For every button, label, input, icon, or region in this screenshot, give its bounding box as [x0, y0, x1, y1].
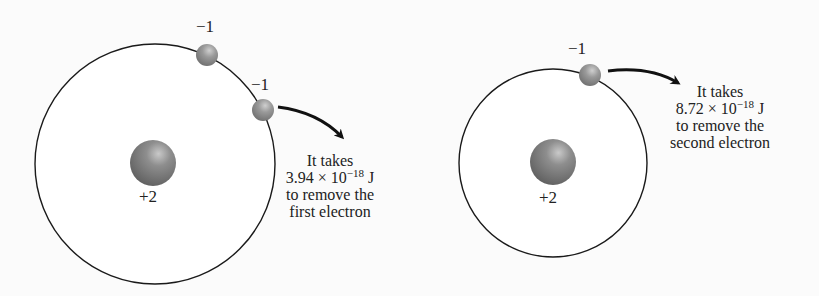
- right-nucleus-charge: +2: [539, 189, 557, 207]
- left-energy-unit: J: [364, 169, 374, 186]
- left-arrow: [278, 107, 342, 137]
- right-electron: [579, 64, 601, 86]
- right-energy-unit: J: [754, 100, 764, 117]
- left-electron-2: [252, 99, 274, 121]
- left-electron-2-charge: −1: [251, 76, 269, 94]
- left-note-line1: It takes: [262, 152, 398, 169]
- left-energy-exponent: −18: [347, 167, 364, 179]
- right-arrow: [608, 70, 678, 83]
- right-energy-exponent: −18: [737, 98, 754, 110]
- right-note-line4: second electron: [650, 134, 790, 151]
- left-note-line3: to remove the: [262, 186, 398, 203]
- left-nucleus-charge: +2: [139, 188, 157, 206]
- ionization-energy-diagram: −1 −1 +2 It takes 3.94 × 10−18 J to remo…: [0, 0, 819, 296]
- left-note-energy: 3.94 × 10−18 J: [262, 169, 398, 186]
- right-ionization-note: It takes 8.72 × 10−18 J to remove the se…: [650, 83, 790, 151]
- right-electron-charge: −1: [568, 40, 586, 58]
- left-nucleus: [130, 140, 176, 186]
- right-energy-mantissa: 8.72 × 10: [676, 100, 737, 117]
- right-note-energy: 8.72 × 10−18 J: [650, 100, 790, 117]
- left-ionization-note: It takes 3.94 × 10−18 J to remove the fi…: [262, 152, 398, 220]
- right-nucleus: [530, 139, 576, 185]
- right-note-line1: It takes: [650, 83, 790, 100]
- left-energy-mantissa: 3.94 × 10: [286, 169, 347, 186]
- left-note-line4: first electron: [262, 203, 398, 220]
- right-note-line3: to remove the: [650, 117, 790, 134]
- left-electron-1-charge: −1: [196, 18, 214, 36]
- left-electron-1: [196, 44, 218, 66]
- right-atom: [459, 64, 678, 257]
